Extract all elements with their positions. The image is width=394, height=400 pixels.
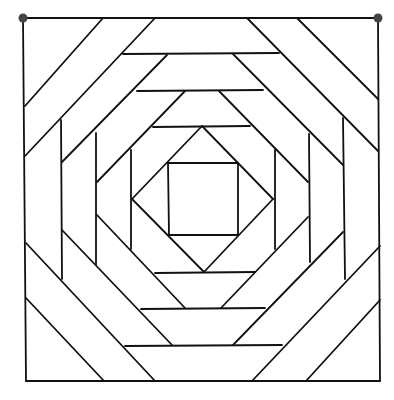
bar-top-3 <box>153 126 250 127</box>
diag-tl-4 <box>97 91 185 182</box>
bar-left-1 <box>61 120 62 279</box>
diag-tl-1 <box>25 18 103 106</box>
bar-top-2 <box>137 90 263 91</box>
inner-square-left <box>168 163 169 235</box>
bar-bottom-1 <box>125 345 282 346</box>
diag-tr-2 <box>247 18 378 151</box>
frame-left <box>23 18 26 381</box>
diag-bl-1 <box>26 298 104 381</box>
diag-bl-2 <box>26 243 155 381</box>
bar-top-1 <box>123 53 279 54</box>
diag-tr-3 <box>233 54 343 165</box>
pattern-lines <box>23 18 380 381</box>
diag-br-4 <box>221 217 308 308</box>
corner-dot-top-left <box>19 14 28 23</box>
diag-bl-3 <box>62 230 172 345</box>
frame-right <box>378 18 380 381</box>
diag-tr-4 <box>219 91 308 182</box>
corner-dot-top-right <box>374 14 383 23</box>
bar-bottom-2 <box>141 308 265 309</box>
diag-br-3 <box>233 232 343 345</box>
diag-tl-3 <box>62 55 167 162</box>
pattern-canvas <box>0 0 394 400</box>
bar-right-2 <box>309 134 310 262</box>
bar-right-1 <box>343 118 345 279</box>
diag-tr-1 <box>297 18 378 99</box>
diag-br-2 <box>252 246 380 381</box>
bar-bottom-3 <box>155 272 255 273</box>
diag-bl-4 <box>97 215 185 308</box>
